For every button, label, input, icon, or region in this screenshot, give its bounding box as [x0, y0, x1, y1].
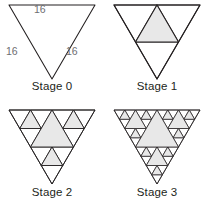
stage-cell-1: Stage 1 [105, 0, 209, 105]
stage-1-diagram [105, 0, 209, 84]
stage-caption-0: Stage 0 [0, 80, 104, 92]
stage-cell-3: Stage 3 [105, 105, 209, 210]
stage-3-diagram [105, 105, 209, 189]
stage-cell-2: Stage 2 [0, 105, 104, 210]
side-label-right: 16 [66, 45, 78, 57]
stage-cell-0: 16 16 16 Stage 0 [0, 0, 104, 105]
stage-caption-2: Stage 2 [0, 186, 104, 198]
stage-0-diagram [0, 0, 104, 84]
side-label-left: 16 [6, 45, 18, 57]
stage-caption-1: Stage 1 [105, 80, 209, 92]
sierpinski-stages-figure: 16 16 16 Stage 0 Stage 1 Stage 2 Stage 3 [0, 0, 209, 211]
stage-2-diagram [0, 105, 104, 189]
stage-caption-3: Stage 3 [105, 186, 209, 198]
side-label-top: 16 [34, 3, 46, 15]
